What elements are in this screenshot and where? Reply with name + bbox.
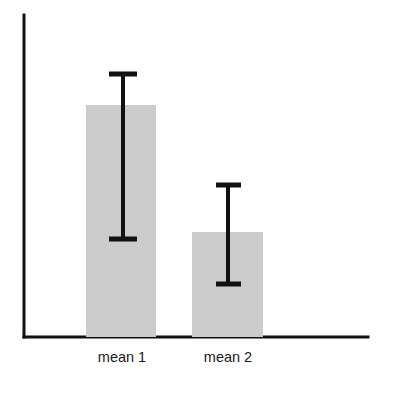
bar-chart-figure: mean 1 mean 2 — [0, 0, 395, 394]
x-tick-label-mean-2: mean 2 — [204, 349, 252, 365]
chart-canvas: mean 1 mean 2 — [0, 0, 395, 394]
x-tick-label-mean-1: mean 1 — [98, 349, 146, 365]
